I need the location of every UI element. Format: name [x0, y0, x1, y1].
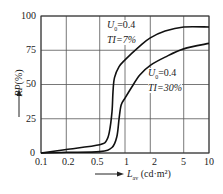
y-tick-100: 100 [21, 11, 36, 21]
y-tick-75: 75 [26, 45, 36, 55]
x-axis-arrow-head [117, 172, 124, 177]
x-tick-0.1: 0.1 [35, 157, 48, 167]
x-tick-2: 2 [152, 157, 157, 167]
x-tick-5: 5 [181, 157, 186, 167]
x-axis-title: Lav (cd·m²) [127, 169, 171, 183]
x-tick-0.5: 0.5 [91, 157, 104, 167]
annotation-ti30: U0=0.4 TI=30% [148, 68, 182, 93]
x-tick-10: 10 [204, 157, 214, 167]
y-axis-title: RP(%) [14, 66, 24, 100]
annotation-ti7: U0=0.4 TI=7% [107, 20, 136, 45]
x-tick-0.2: 0.2 [62, 157, 75, 167]
y-tick-50: 50 [26, 79, 36, 89]
x-tick-1: 1 [124, 157, 129, 167]
y-tick-25: 25 [26, 114, 36, 124]
